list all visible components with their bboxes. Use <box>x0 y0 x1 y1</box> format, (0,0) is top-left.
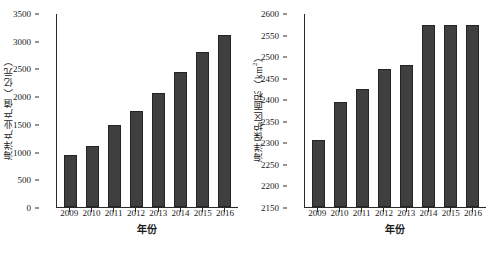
y-tick-mark <box>283 186 287 187</box>
bar-column <box>148 14 170 207</box>
bar-series-right <box>305 14 486 207</box>
x-tick-label: 2013 <box>395 209 417 218</box>
y-tick-label: 2200 <box>261 182 279 191</box>
y-tick-mark <box>35 41 39 42</box>
y-tick-label: 2500 <box>261 53 279 62</box>
bar-2010 <box>334 102 347 207</box>
y-tick-label: 2400 <box>261 96 279 105</box>
y-tick-label: 2150 <box>261 204 279 213</box>
bar-2016 <box>218 35 231 207</box>
x-tick-label: 2014 <box>417 209 439 218</box>
x-tick-label: 2010 <box>80 209 102 218</box>
bar-column <box>329 14 351 207</box>
bar-column <box>351 14 373 207</box>
y-tick-mark <box>283 14 287 15</box>
bar-2009 <box>64 155 77 207</box>
bar-2015 <box>196 52 209 207</box>
y-tick-label: 2300 <box>261 139 279 148</box>
bar-2012 <box>130 111 143 207</box>
x-tick-label: 2015 <box>192 209 214 218</box>
x-tick-label: 2011 <box>103 209 125 218</box>
chart-panel-right: 海洋保护区面积（km2） 215022002250230023502400245… <box>248 0 496 261</box>
x-tick-label: 2010 <box>328 209 350 218</box>
y-tick-mark <box>35 208 39 209</box>
bar-column <box>307 14 329 207</box>
y-tick-label: 1000 <box>13 148 31 157</box>
bar-column <box>125 14 147 207</box>
x-axis-tick-labels-right: 20092010201120122013201420152016 <box>304 209 486 218</box>
x-tick-label: 2012 <box>125 209 147 218</box>
bar-2013 <box>400 65 413 207</box>
y-tick-mark <box>283 121 287 122</box>
y-tick-mark <box>35 180 39 181</box>
y-tick-mark <box>283 208 287 209</box>
y-tick-label: 0 <box>27 204 32 213</box>
x-tick-label: 2013 <box>147 209 169 218</box>
x-tick-label: 2014 <box>169 209 191 218</box>
bar-column <box>214 14 236 207</box>
x-axis-title-right: 年份 <box>304 225 486 235</box>
bar-2012 <box>378 69 391 207</box>
y-tick-label: 2550 <box>261 31 279 40</box>
y-tick-mark <box>283 57 287 58</box>
bar-column <box>81 14 103 207</box>
bar-column <box>396 14 418 207</box>
y-tick-mark <box>35 14 39 15</box>
x-tick-label: 2011 <box>351 209 373 218</box>
bar-2014 <box>422 25 435 207</box>
figure-container: 海洋产业产值（亿元） 0500100015002000250030003500 … <box>0 0 496 261</box>
y-tick-mark <box>283 35 287 36</box>
bar-column <box>440 14 462 207</box>
bar-column <box>373 14 395 207</box>
x-axis-tick-labels-left: 20092010201120122013201420152016 <box>56 209 238 218</box>
y-tick-label: 2600 <box>261 10 279 19</box>
bar-2011 <box>108 125 121 207</box>
bar-2015 <box>444 25 457 207</box>
bar-column <box>103 14 125 207</box>
x-axis-title-left: 年份 <box>56 225 238 235</box>
y-tick-mark <box>35 97 39 98</box>
y-tick-label: 2500 <box>13 65 31 74</box>
y-tick-mark <box>35 69 39 70</box>
bar-column <box>418 14 440 207</box>
bar-2014 <box>174 72 187 207</box>
bar-column <box>192 14 214 207</box>
x-tick-label: 2016 <box>462 209 484 218</box>
x-tick-label: 2016 <box>214 209 236 218</box>
y-tick-label: 2000 <box>13 93 31 102</box>
y-tick-label: 1500 <box>13 120 31 129</box>
y-tick-label: 2450 <box>261 74 279 83</box>
y-tick-mark <box>283 143 287 144</box>
x-tick-label: 2009 <box>58 209 80 218</box>
bar-column <box>59 14 81 207</box>
y-tick-label: 500 <box>18 176 32 185</box>
y-tick-mark <box>283 78 287 79</box>
y-tick-label: 3500 <box>13 10 31 19</box>
y-tick-label: 2250 <box>261 160 279 169</box>
y-tick-mark <box>283 100 287 101</box>
bar-2016 <box>466 25 479 207</box>
bar-column <box>462 14 484 207</box>
y-axis-tick-labels-right: 2150220022502300235024002450250025502600 <box>248 14 282 208</box>
y-tick-mark <box>35 152 39 153</box>
chart-panel-left: 海洋产业产值（亿元） 0500100015002000250030003500 … <box>0 0 248 261</box>
x-tick-label: 2012 <box>373 209 395 218</box>
y-tick-mark <box>35 124 39 125</box>
bar-2010 <box>86 146 99 207</box>
y-tick-label: 2350 <box>261 117 279 126</box>
y-tick-mark <box>283 164 287 165</box>
y-axis-tick-labels-left: 0500100015002000250030003500 <box>0 14 34 208</box>
plot-area-left <box>56 14 238 208</box>
x-tick-label: 2009 <box>306 209 328 218</box>
plot-area-right <box>304 14 486 208</box>
bar-2009 <box>312 140 325 207</box>
bar-2013 <box>152 93 165 207</box>
x-tick-label: 2015 <box>440 209 462 218</box>
bar-column <box>170 14 192 207</box>
bar-2011 <box>356 89 369 207</box>
y-tick-label: 3000 <box>13 37 31 46</box>
bar-series-left <box>57 14 238 207</box>
